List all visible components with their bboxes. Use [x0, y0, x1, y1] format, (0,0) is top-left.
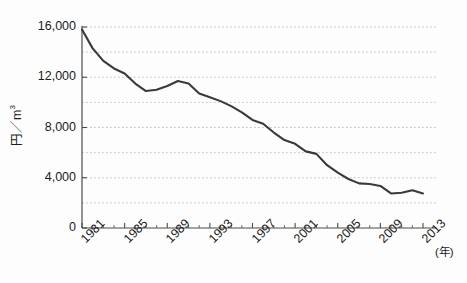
- y-axis-label-base: 円／m: [10, 110, 24, 146]
- series-line: [82, 30, 423, 194]
- gridlines: [82, 27, 437, 203]
- y-axis-label-text: 円／m3: [6, 91, 25, 161]
- data-series: [82, 30, 423, 194]
- y-tick-label: 12,000: [38, 69, 76, 83]
- line-chart: 円／m3 (年) 04,0008,00012,00016,000 1981198…: [0, 0, 467, 283]
- y-tick-label: 0: [69, 220, 76, 234]
- y-axis-label-exponent: 3: [8, 105, 17, 109]
- y-tick-label: 4,000: [45, 170, 76, 184]
- chart-canvas: [0, 0, 467, 283]
- x-axis-unit-label: (年): [435, 243, 454, 259]
- y-tick-label: 8,000: [45, 120, 76, 134]
- y-axis-label: 円／m3: [2, 88, 28, 168]
- y-tick-label: 16,000: [38, 19, 76, 33]
- y-axis-ticks: [82, 27, 87, 228]
- axes: [82, 26, 437, 228]
